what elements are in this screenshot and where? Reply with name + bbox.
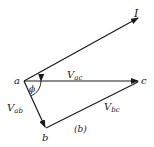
phasor-diagram: I Vac a c ϕ Vab Vbc b (b) bbox=[0, 0, 154, 147]
label-Vac: Vac bbox=[67, 69, 82, 82]
vector-Vbc bbox=[46, 82, 138, 128]
caption: (b) bbox=[74, 124, 87, 134]
label-Vbc: Vbc bbox=[104, 101, 120, 114]
label-point-b: b bbox=[42, 132, 48, 143]
label-point-c: c bbox=[141, 75, 147, 86]
label-phi: ϕ bbox=[29, 84, 35, 94]
label-Vab: Vab bbox=[7, 102, 23, 115]
label-point-a: a bbox=[14, 75, 20, 86]
vector-I bbox=[24, 18, 138, 81]
label-I: I bbox=[133, 7, 139, 20]
